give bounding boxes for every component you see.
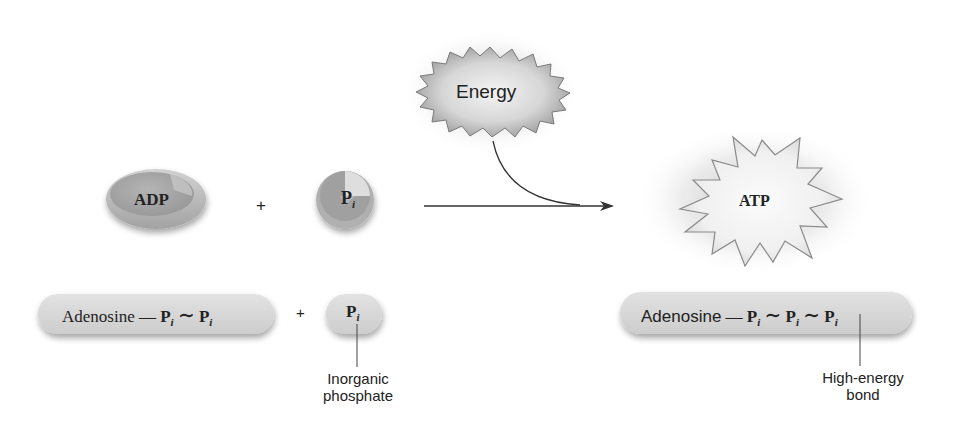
- inorganic-phosphate-caption: Inorganic phosphate: [312, 370, 404, 404]
- pi-formula: Pi: [346, 302, 359, 322]
- pi-symbol: P: [341, 188, 352, 208]
- adp-label: ADP: [134, 190, 169, 210]
- high-energy-bond: ∼: [178, 304, 195, 326]
- phosphate-1: P: [160, 307, 170, 326]
- phosphate-2: P: [199, 307, 209, 326]
- high-energy-bond-caption: High-energy bond: [808, 369, 918, 403]
- adenosine-text: Adenosine: [641, 307, 721, 326]
- atp-label: ATP: [739, 192, 770, 210]
- high-energy-bond-1: ∼: [765, 304, 782, 326]
- single-bond: —: [139, 307, 156, 326]
- adenosine-text: Adenosine: [62, 307, 135, 326]
- single-bond: —: [726, 307, 743, 326]
- pi-subscript: i: [352, 198, 355, 210]
- reactant-plus: +: [256, 196, 266, 216]
- formula-plus: +: [296, 304, 305, 321]
- adp-formula: Adenosine — Pi ∼ Pi: [62, 303, 212, 327]
- atp-formula: Adenosine — Pi ∼ Pi ∼ Pi: [641, 303, 838, 327]
- atp-synthesis-diagram: Energy ADP + Pi ATP Adenosine — Pi ∼ Pi …: [0, 0, 966, 448]
- pi-label: Pi: [341, 188, 355, 209]
- high-energy-bond-2: ∼: [803, 304, 820, 326]
- energy-label: Energy: [456, 81, 516, 103]
